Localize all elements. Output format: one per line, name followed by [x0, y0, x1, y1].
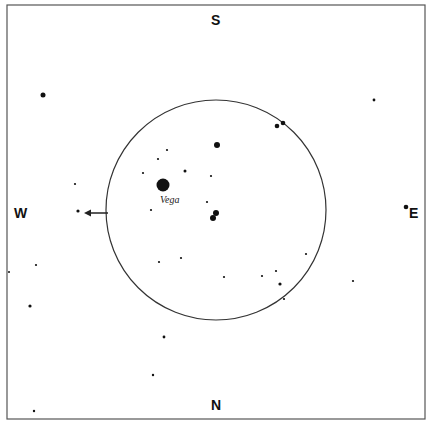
star [76, 209, 79, 212]
star [158, 261, 160, 263]
star [163, 336, 166, 339]
star [214, 142, 220, 148]
star [180, 257, 182, 259]
star [278, 282, 281, 285]
star-vega [157, 179, 170, 192]
star [283, 298, 285, 300]
direction-north: N [211, 397, 221, 413]
star [275, 124, 280, 129]
star [184, 170, 187, 173]
star [74, 183, 76, 185]
star [281, 121, 286, 126]
star [261, 275, 263, 277]
star [28, 304, 31, 307]
star [166, 149, 168, 151]
star [305, 253, 307, 255]
star [213, 210, 219, 216]
direction-east: E [409, 205, 418, 221]
star [373, 99, 376, 102]
direction-south: S [211, 12, 220, 28]
star-chart [0, 0, 432, 426]
star [150, 209, 152, 211]
star [210, 175, 212, 177]
star [33, 410, 35, 412]
star [206, 201, 208, 203]
star [41, 93, 46, 98]
star [152, 374, 154, 376]
star [404, 205, 409, 210]
star [35, 264, 37, 266]
star [352, 280, 354, 282]
star [142, 172, 144, 174]
star [223, 276, 225, 278]
star [210, 215, 216, 221]
star [157, 158, 159, 160]
direction-west: W [14, 205, 27, 221]
star [8, 271, 10, 273]
star-label-vega: Vega [160, 194, 179, 205]
star [275, 270, 277, 272]
